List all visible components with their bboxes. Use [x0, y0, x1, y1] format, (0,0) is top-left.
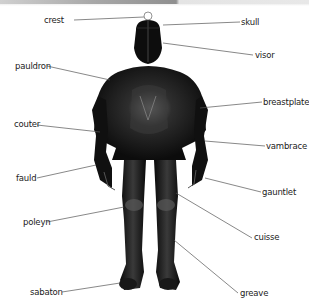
label-crest: crest — [44, 15, 64, 25]
crest-leader — [74, 17, 144, 20]
legs — [119, 160, 180, 290]
label-cuisse: cuisse — [254, 232, 279, 242]
fauld-leader — [37, 165, 96, 178]
poleyn-leader — [47, 207, 124, 222]
vambrace-leader — [205, 141, 265, 146]
skull-leader — [163, 22, 240, 25]
label-greave: greave — [240, 288, 268, 298]
label-skull: skull — [241, 17, 259, 27]
label-pauldron: pauldron — [15, 61, 51, 71]
breastplate-leader — [200, 102, 262, 108]
label-visor: visor — [255, 50, 275, 60]
label-fauld: fauld — [16, 173, 36, 183]
label-sabaton: sabaton — [30, 287, 63, 297]
torso — [94, 66, 206, 160]
visor-leader — [163, 43, 253, 55]
helmet — [134, 12, 162, 64]
label-gauntlet: gauntlet — [262, 187, 296, 197]
gauntlet-leader — [205, 178, 261, 192]
label-breastplate: breastplate — [263, 97, 309, 107]
armor-illustration — [0, 0, 309, 304]
crest-ring — [144, 12, 152, 20]
pauldron-leader — [47, 66, 110, 80]
label-couter: couter — [14, 119, 40, 129]
cuisse-leader — [176, 193, 252, 238]
greave-leader — [174, 240, 238, 293]
label-poleyn: poleyn — [23, 217, 50, 227]
sabaton-leader — [62, 283, 120, 292]
couter-leader — [37, 125, 100, 132]
label-vambrace: vambrace — [266, 141, 307, 151]
